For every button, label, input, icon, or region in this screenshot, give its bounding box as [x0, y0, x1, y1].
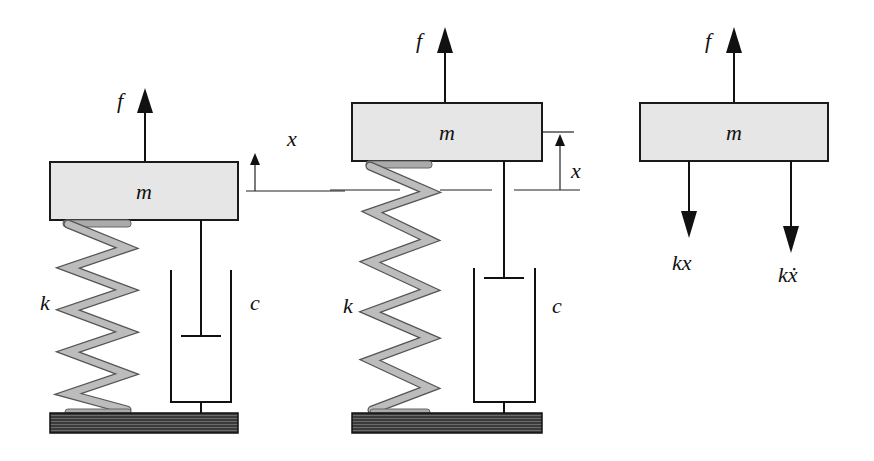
- damper-icon: [171, 220, 231, 413]
- displacement-indicator: [246, 153, 345, 191]
- mass-label: m: [136, 179, 152, 204]
- displacement-label: x: [570, 158, 581, 183]
- damper-label: c: [552, 293, 562, 318]
- force-label: f: [117, 88, 126, 113]
- mass-label: m: [439, 120, 455, 145]
- force-arrow-icon: [726, 27, 742, 103]
- force-arrow-icon: [137, 88, 153, 162]
- spring-label: k: [40, 290, 51, 315]
- force-arrow-icon: [437, 27, 453, 103]
- spring-force-label: kx: [672, 250, 692, 275]
- panel-free-body: f m kx kẋ: [640, 27, 828, 287]
- panel-equilibrium: f m x k c: [40, 88, 345, 433]
- damper-force-arrow-icon: [783, 161, 799, 253]
- mass-label: m: [726, 120, 742, 145]
- spring-mass-damper-diagram: f m x k c: [0, 0, 874, 461]
- ground-base: [50, 413, 238, 433]
- ground-base: [352, 413, 542, 433]
- spring-icon: [63, 220, 131, 415]
- damper-force-label: kẋ: [778, 262, 798, 287]
- spring-icon: [366, 161, 432, 415]
- damper-icon: [474, 161, 535, 413]
- displacement-label: x: [286, 126, 297, 151]
- damper-label: c: [250, 290, 260, 315]
- spring-force-arrow-icon: [681, 161, 697, 238]
- spring-label: k: [343, 293, 354, 318]
- displacement-indicator: [542, 132, 574, 190]
- force-label: f: [416, 28, 425, 53]
- panel-displaced: f m x k c: [330, 27, 581, 433]
- force-label: f: [705, 28, 714, 53]
